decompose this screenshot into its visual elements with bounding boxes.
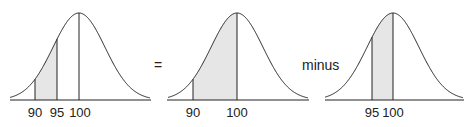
tick-label-95: 95	[365, 105, 379, 120]
tick-label-100: 100	[226, 105, 248, 120]
panel-area-90-100: 90 100	[167, 13, 309, 120]
tick-label-90: 90	[28, 105, 42, 120]
tick-label-95: 95	[50, 105, 64, 120]
minus-word: minus	[302, 57, 339, 73]
normal-curve-diagram: 90 95 100 = 90 100 minus 95 100	[0, 0, 470, 127]
panel-area-90-95: 90 95 100	[10, 13, 151, 120]
tick-label-90: 90	[186, 105, 200, 120]
equals-sign: =	[154, 57, 162, 73]
panel-area-95-100: 95 100	[325, 13, 464, 120]
tick-label-100: 100	[382, 105, 404, 120]
tick-label-100: 100	[69, 105, 91, 120]
